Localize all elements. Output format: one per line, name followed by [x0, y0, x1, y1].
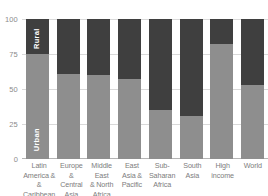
bar-segment-rural[interactable]: Rural: [26, 19, 49, 54]
x-axis-label: LatinAmerica & &Caribbean: [22, 161, 56, 196]
bar-slot: RuralUrban: [22, 19, 53, 159]
x-axis-label: Europe& CentralAsia: [56, 161, 86, 196]
bar-segment-urban[interactable]: [118, 79, 141, 159]
y-tick-label-75: 75: [0, 51, 18, 59]
stacked-bar-chart: 100 75 50 25 0 RuralUrban LatinAmerica &…: [0, 0, 268, 196]
bar-segment-rural[interactable]: [241, 19, 264, 85]
stacked-bar[interactable]: RuralUrban: [26, 19, 49, 159]
stacked-bar[interactable]: [149, 19, 172, 159]
bar-slot: [114, 19, 145, 159]
bar-segment-urban[interactable]: [57, 74, 80, 159]
bar-segment-urban[interactable]: [87, 75, 110, 159]
y-tick-label-0: 0: [0, 156, 18, 164]
y-tick-label-25: 25: [0, 121, 18, 129]
bar-segment-rural[interactable]: [210, 19, 233, 44]
bar-segment-rural[interactable]: [57, 19, 80, 74]
x-axis-label: EastAsia &Pacific: [117, 161, 147, 196]
bar-slot: [145, 19, 176, 159]
x-axis-label: Middle East& NorthAfrica: [87, 161, 117, 196]
rural-series-label: Rural: [34, 28, 42, 49]
x-axis-label: SouthAsia: [177, 161, 207, 196]
bar-segment-urban[interactable]: [149, 110, 172, 159]
x-axis-labels: LatinAmerica & &CaribbeanEurope& Central…: [22, 161, 268, 196]
bar-slot: [176, 19, 207, 159]
bar-segment-urban[interactable]: Urban: [26, 54, 49, 159]
stacked-bar[interactable]: [241, 19, 264, 159]
stacked-bar[interactable]: [118, 19, 141, 159]
bar-segment-urban[interactable]: [241, 85, 264, 159]
bar-slot: [84, 19, 115, 159]
y-tick-label-100: 100: [0, 16, 18, 24]
plot-area: 100 75 50 25 0 RuralUrban: [22, 19, 268, 159]
bar-segment-urban[interactable]: [180, 116, 203, 159]
bar-segment-rural[interactable]: [149, 19, 172, 110]
bar-segment-rural[interactable]: [87, 19, 110, 75]
x-axis-label: World: [238, 161, 268, 196]
stacked-bar[interactable]: [87, 19, 110, 159]
bar-segment-urban[interactable]: [210, 44, 233, 159]
stacked-bar[interactable]: [210, 19, 233, 159]
y-tick-label-50: 50: [0, 86, 18, 94]
stacked-bar[interactable]: [180, 19, 203, 159]
bar-slot: [237, 19, 268, 159]
bar-group: RuralUrban: [22, 19, 268, 159]
stacked-bar[interactable]: [57, 19, 80, 159]
x-axis-label: Highincome: [208, 161, 238, 196]
bar-segment-rural[interactable]: [180, 19, 203, 116]
x-axis-label: Sub-SaharanAfrica: [147, 161, 177, 196]
bar-slot: [207, 19, 238, 159]
bar-segment-rural[interactable]: [118, 19, 141, 79]
bar-slot: [53, 19, 84, 159]
urban-series-label: Urban: [34, 128, 42, 151]
